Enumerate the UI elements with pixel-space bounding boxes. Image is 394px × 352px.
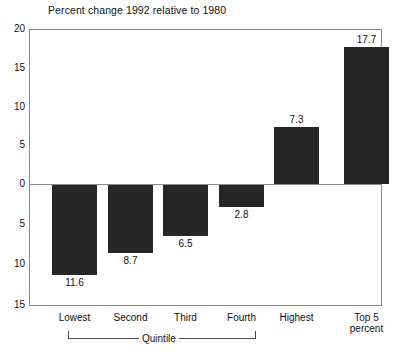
y-axis-tick-label: 20 [1, 24, 25, 34]
bar-value-second: 8.7 [98, 255, 163, 266]
y-axis-tick-label: 0 [1, 179, 25, 189]
category-label-highest: Highest [264, 312, 329, 323]
y-axis-tick-neg10: 10 [0, 259, 25, 269]
category-label-top5-line1: Top 5 [354, 312, 378, 323]
quintile-bracket-right-tick [255, 331, 256, 339]
y-axis-tick-label: 5 [1, 219, 25, 229]
quintile-bracket-left-tick [68, 331, 69, 339]
y-axis-tick-15: 15 [0, 63, 25, 73]
y-axis-tick-label: 15 [1, 63, 25, 73]
bar-chart-figure: Percent change 1992 relative to 1980 20 … [0, 0, 394, 352]
y-axis-tick-neg15: 15 [0, 300, 25, 310]
y-axis-tick-label: 15 [1, 300, 25, 310]
bar-highest[interactable] [274, 127, 319, 184]
y-axis-tick-0: 0 [0, 179, 25, 189]
bar-second[interactable] [108, 185, 153, 253]
y-axis-tick-label: 5 [1, 140, 25, 150]
bar-value-top5: 17.7 [334, 34, 394, 45]
category-label-top5: Top 5 percent [334, 312, 394, 334]
bar-value-lowest: 11.6 [42, 277, 107, 288]
bar-value-highest: 7.3 [264, 114, 329, 125]
bar-fourth[interactable] [219, 185, 264, 207]
category-label-top5-line2: percent [334, 323, 394, 334]
y-axis-tick-5: 5 [0, 140, 25, 150]
y-axis-tick-10: 10 [0, 102, 25, 112]
y-axis-tick-neg5: 5 [0, 219, 25, 229]
bar-third[interactable] [163, 185, 208, 236]
bar-top5[interactable] [344, 47, 389, 184]
chart-title: Percent change 1992 relative to 1980 [48, 4, 226, 16]
y-axis-tick-label: 10 [1, 259, 25, 269]
y-axis-tick-label: 10 [1, 102, 25, 112]
bar-value-third: 6.5 [153, 238, 218, 249]
bar-lowest[interactable] [52, 185, 97, 275]
bar-value-fourth: 2.8 [209, 209, 274, 220]
y-axis-tick-20: 20 [0, 24, 25, 34]
quintile-bracket-label: Quintile [139, 333, 179, 344]
